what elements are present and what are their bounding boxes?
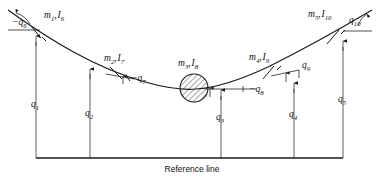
q5-label: q5: [338, 94, 347, 106]
mass-m2-label: m2, I7: [104, 53, 125, 65]
figure-canvas: q1 q2 q3 q4: [0, 0, 385, 180]
q9-label: q9: [302, 60, 311, 72]
q8-label: −q8: [249, 84, 264, 96]
angle-q9: [271, 70, 299, 82]
coordinate-q4: q4: [289, 83, 298, 158]
mass-m1-tick: [31, 26, 46, 41]
q2-label: q2: [85, 108, 94, 120]
mass-m5-label: m5, I10: [308, 9, 332, 21]
coordinate-q1: q1: [31, 36, 39, 158]
deflection-diagram: q1 q2 q3 q4: [0, 0, 385, 180]
mass-m4-label: m4, I9: [249, 52, 270, 64]
q7-ref-line: [106, 74, 134, 79]
q1-label: q1: [31, 99, 39, 111]
reference-line-caption: Reference line: [165, 164, 220, 174]
angle-q7: [106, 74, 134, 84]
coordinate-q3: q3: [216, 90, 225, 158]
q10-label: q10: [349, 15, 361, 27]
q7-label: −q7: [131, 73, 146, 85]
mass-m3-label: m3, I8: [178, 58, 199, 70]
q9-ref-line: [271, 70, 299, 76]
mass-m3-body: [180, 74, 208, 102]
mass-m5-tick: [327, 30, 345, 44]
q6-label: −q6: [12, 17, 27, 29]
coordinate-q2: q2: [85, 69, 94, 158]
q3-label: q3: [216, 112, 225, 124]
coordinate-q5: q5: [338, 41, 347, 158]
mass-m1-label: m1, I6: [44, 10, 65, 22]
q4-label: q4: [289, 109, 298, 121]
